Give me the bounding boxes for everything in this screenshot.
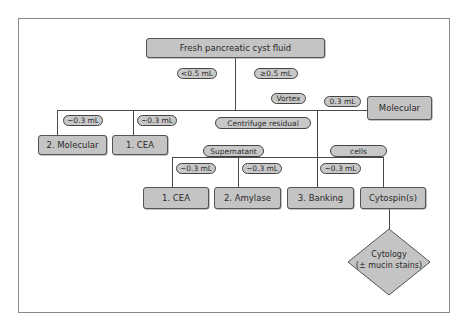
label-left-cea-volume: ~0.3 mL bbox=[137, 115, 177, 126]
connector-lower-horizontal bbox=[172, 157, 383, 158]
connector-cytology bbox=[389, 209, 390, 229]
connector-left-molecular bbox=[57, 110, 58, 135]
connector-main-horizontal bbox=[57, 110, 368, 111]
connector-root-stem bbox=[235, 58, 236, 110]
label-cells: cells bbox=[330, 145, 387, 157]
label-greater-equal-volume: ≥0.5 mL bbox=[254, 68, 298, 79]
connector-cytospin bbox=[383, 157, 384, 187]
node-amylase: 2. Amylase bbox=[214, 187, 281, 209]
label-supernatant: Supernatant bbox=[203, 145, 264, 157]
label-centrifuge-residual: Centrifuge residual bbox=[215, 117, 311, 129]
node-banking: 3. Banking bbox=[287, 187, 354, 209]
root-node-label: Fresh pancreatic cyst fluid bbox=[180, 43, 291, 53]
node-cytology: Cytology (± mucin stains) bbox=[349, 249, 429, 271]
node-cytospin: Cytospin(s) bbox=[360, 187, 426, 209]
label-less-than-volume: <0.5 mL bbox=[177, 68, 217, 79]
label-left-molecular-volume: ~0.3 mL bbox=[63, 115, 103, 126]
label-sup-amylase-volume: ~0.3 mL bbox=[242, 163, 282, 174]
node-cea-supernatant: 1. CEA bbox=[143, 187, 209, 209]
node-cea-left: 1. CEA bbox=[112, 135, 168, 155]
root-node: Fresh pancreatic cyst fluid bbox=[146, 38, 325, 58]
connector-left-cea bbox=[133, 110, 134, 135]
label-molecular-volume: 0.3 mL bbox=[324, 96, 361, 107]
node-molecular-right: Molecular bbox=[367, 96, 432, 120]
connector-sup-cea bbox=[172, 157, 173, 187]
node-molecular-left: 2. Molecular bbox=[38, 135, 107, 155]
label-sup-cea-volume: ~0.3 mL bbox=[176, 163, 216, 174]
connector-banking bbox=[317, 110, 318, 187]
label-banking-volume: ~0.3 mL bbox=[320, 163, 361, 174]
label-vortex: Vortex bbox=[271, 93, 306, 104]
